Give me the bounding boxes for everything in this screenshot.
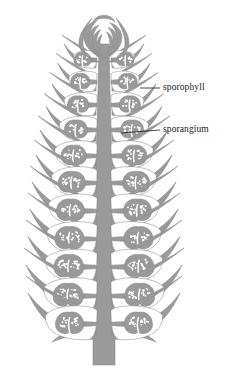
spore <box>146 234 148 236</box>
spore <box>123 59 125 61</box>
spore <box>66 178 68 180</box>
spore <box>57 264 59 266</box>
spore <box>132 317 134 319</box>
spore <box>78 59 80 61</box>
spore <box>144 209 146 211</box>
spore <box>85 81 87 83</box>
spore <box>133 182 135 184</box>
spore <box>77 61 79 63</box>
spore <box>79 149 81 151</box>
spore <box>70 124 72 126</box>
spore <box>129 263 131 265</box>
spore <box>67 211 69 213</box>
spore <box>128 296 130 298</box>
spore <box>129 61 131 63</box>
spore <box>128 264 130 266</box>
spore <box>147 292 149 294</box>
spore <box>69 180 71 182</box>
sporangium-stalk <box>82 321 97 326</box>
spore <box>65 263 67 265</box>
spore <box>131 241 133 243</box>
spore <box>60 289 62 291</box>
sporangium-stalk <box>111 102 120 107</box>
sporangium-stalk <box>111 236 125 241</box>
spore <box>133 324 135 326</box>
spore <box>143 181 145 183</box>
spore <box>129 180 131 182</box>
spore <box>127 155 129 157</box>
spore <box>77 184 78 185</box>
sporangium-stalk <box>111 293 126 298</box>
spore <box>126 180 128 182</box>
spore <box>78 209 80 211</box>
sporangium-cleft <box>131 125 132 137</box>
spore <box>66 155 68 157</box>
spore <box>61 210 63 212</box>
spore <box>62 210 64 212</box>
spore <box>130 319 132 321</box>
spore <box>135 208 137 210</box>
spore <box>144 259 146 261</box>
spore <box>124 101 126 103</box>
sporangium-cleft <box>77 100 78 111</box>
apex-sporangium-primordium <box>93 42 101 50</box>
sporangium-stalk <box>83 236 97 241</box>
sporangium-stalk <box>85 153 97 158</box>
spore <box>142 289 144 291</box>
spore <box>76 180 78 182</box>
sporangium-stalk <box>89 79 97 84</box>
spore <box>130 208 132 210</box>
spore <box>61 321 63 323</box>
spore <box>145 180 147 182</box>
spore <box>133 264 135 266</box>
spore <box>141 236 143 238</box>
spore <box>77 236 79 238</box>
spore <box>77 267 79 269</box>
spore <box>79 56 81 58</box>
spore <box>78 263 80 265</box>
spore <box>63 263 65 265</box>
sporangium-stalk <box>83 208 97 213</box>
spore <box>80 132 82 134</box>
spore <box>133 241 135 243</box>
spore <box>145 261 147 263</box>
sporangium-cleft <box>82 56 83 65</box>
spore <box>134 325 136 327</box>
spore <box>147 289 149 291</box>
label-sporangium: sporangium <box>163 125 209 135</box>
spore <box>142 291 144 293</box>
spore <box>125 80 127 82</box>
spore <box>72 237 74 239</box>
spore <box>130 322 132 324</box>
spore <box>76 152 78 154</box>
spore <box>77 182 79 184</box>
sporangium-stalk <box>111 127 122 132</box>
spore <box>84 61 86 63</box>
spore <box>70 157 71 158</box>
spore <box>132 106 134 108</box>
spore <box>61 291 63 293</box>
spore <box>77 83 79 85</box>
spore <box>71 289 73 291</box>
spore <box>139 152 141 154</box>
spore <box>144 320 146 322</box>
spore <box>132 322 134 324</box>
spore <box>126 125 128 127</box>
spore <box>141 324 143 326</box>
spore <box>62 178 64 180</box>
spore <box>75 296 77 298</box>
spore <box>144 237 146 239</box>
spore <box>135 297 137 299</box>
spore <box>129 185 131 187</box>
spore <box>132 100 134 102</box>
spore <box>69 294 71 296</box>
spore <box>133 211 135 213</box>
spore <box>74 289 76 291</box>
spore <box>127 206 129 208</box>
spore <box>76 263 78 265</box>
spore <box>79 179 81 181</box>
spore <box>140 205 142 207</box>
spore <box>81 153 83 155</box>
sporangium-stalk <box>111 79 119 84</box>
strobilus-longitudinal-section-diagram <box>0 0 229 377</box>
